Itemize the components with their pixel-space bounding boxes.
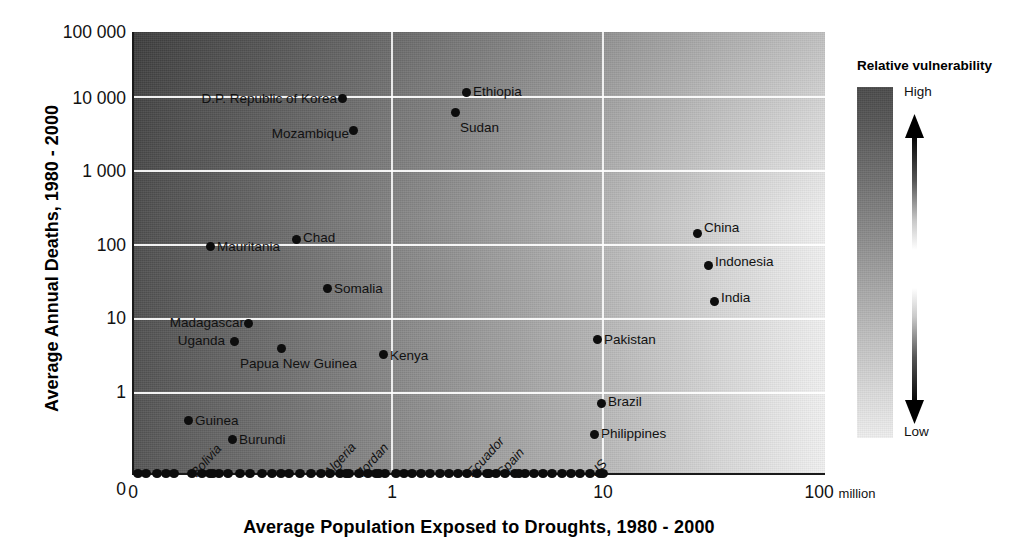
data-point <box>306 469 316 478</box>
data-point <box>245 469 255 478</box>
data-point <box>374 469 384 478</box>
point-label: Uganda <box>178 334 225 348</box>
data-point <box>593 335 602 344</box>
point-label: Burundi <box>239 433 286 447</box>
data-point <box>187 469 197 478</box>
point-label: China <box>704 221 739 235</box>
data-point <box>575 469 585 478</box>
data-point <box>704 261 713 270</box>
x-tick-100-value: 100 <box>805 482 834 502</box>
data-point <box>514 469 524 478</box>
x-axis-title: Average Population Exposed to Droughts, … <box>133 517 825 538</box>
data-point <box>710 297 719 306</box>
data-point <box>295 469 305 478</box>
point-label: Chad <box>303 231 335 245</box>
point-label: D.P. Republic of Korea <box>201 92 337 106</box>
data-point <box>598 469 608 478</box>
data-point <box>484 469 494 478</box>
point-label: Sudan <box>460 121 499 135</box>
point-label: Madagascar <box>170 316 244 330</box>
y-tick-100: 100 <box>0 235 126 256</box>
data-point <box>590 430 599 439</box>
arrow-down-icon <box>905 288 924 424</box>
legend: Relative vulnerability High Low <box>848 58 1018 458</box>
arrow-up-icon <box>905 114 924 250</box>
data-point <box>547 469 557 478</box>
data-point <box>223 469 233 478</box>
legend-arrows <box>900 110 930 428</box>
point-label: Somalia <box>334 282 383 296</box>
data-point <box>244 319 253 328</box>
data-point <box>341 469 351 478</box>
y-axis-line <box>132 32 134 475</box>
y-tick-1000: 1 000 <box>0 161 126 182</box>
gridline-x-10 <box>602 32 604 474</box>
x-tick-100: 100 million <box>805 482 876 503</box>
point-label: Ethiopia <box>473 85 522 99</box>
y-axis-title: Average Annual Deaths, 1980 - 2000 <box>42 29 63 489</box>
data-point <box>325 469 335 478</box>
data-point <box>597 399 606 408</box>
point-label: Brazil <box>608 395 642 409</box>
data-point <box>349 126 358 135</box>
data-point <box>277 344 286 353</box>
point-label: Guinea <box>195 414 239 428</box>
drought-vulnerability-scatter-figure: 100 000 10 000 1 000 100 10 1 0 D.P. Rep… <box>0 0 1019 551</box>
x-tick-0: 0 <box>128 482 138 503</box>
x-tick-10: 10 <box>593 482 612 503</box>
point-label: India <box>721 291 750 305</box>
data-point <box>228 435 237 444</box>
point-label: Philippines <box>601 427 666 441</box>
data-point <box>257 469 267 478</box>
data-point <box>425 469 435 478</box>
data-point <box>284 469 294 478</box>
data-point <box>208 469 218 478</box>
y-tick-1: 1 <box>0 382 126 403</box>
data-point <box>292 235 301 244</box>
data-point <box>472 469 482 478</box>
data-point <box>338 94 347 103</box>
data-point <box>379 350 388 359</box>
data-point <box>230 337 239 346</box>
gridline-1 <box>133 392 825 394</box>
gridline-1000 <box>133 170 825 172</box>
data-point <box>451 108 460 117</box>
gridline-x-1 <box>391 32 393 474</box>
y-tick-100000: 100 000 <box>0 22 126 43</box>
data-point <box>323 284 332 293</box>
data-point <box>235 469 245 478</box>
y-tick-10: 10 <box>0 308 126 329</box>
legend-title: Relative vulnerability <box>857 58 992 73</box>
point-label: Kenya <box>390 349 428 363</box>
data-point <box>169 469 179 478</box>
legend-high-label: High <box>904 84 932 99</box>
data-point <box>141 469 151 478</box>
data-point <box>462 88 471 97</box>
point-label: Mozambique <box>272 127 349 141</box>
x-tick-1: 1 <box>387 482 397 503</box>
x-tick-unit: million <box>839 486 876 501</box>
data-point <box>500 469 510 478</box>
data-point <box>184 416 193 425</box>
data-point <box>462 469 472 478</box>
y-tick-0: 0 <box>0 479 126 500</box>
y-tick-10000: 10 000 <box>0 88 126 109</box>
data-point <box>693 229 702 238</box>
point-label: Pakistan <box>604 333 656 347</box>
legend-gradient-bar <box>857 87 893 438</box>
data-point <box>585 469 595 478</box>
point-label: Papua New Guinea <box>240 357 357 371</box>
data-point <box>206 242 215 251</box>
point-label: Mauritania <box>217 240 280 254</box>
legend-bar-texture <box>857 87 893 438</box>
point-label: Indonesia <box>715 255 774 269</box>
